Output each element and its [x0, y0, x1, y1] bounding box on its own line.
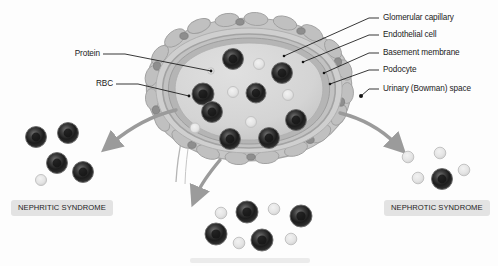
arrow-to-center — [197, 160, 220, 194]
leader-dot-glomerular-capillary — [283, 55, 286, 58]
protein-molecule — [228, 87, 239, 98]
protein-molecule — [412, 172, 424, 184]
rbc-core — [79, 168, 88, 177]
protein-molecule — [254, 59, 265, 70]
leader-dot-basement-membrane — [323, 72, 326, 75]
rbc-core — [242, 207, 251, 216]
label-protein: Protein — [40, 50, 100, 58]
protein-molecule — [215, 207, 227, 219]
rbc-core — [32, 133, 41, 142]
protein-molecule — [434, 147, 446, 159]
protein-molecule — [283, 90, 294, 101]
leader-dot-podocyte — [329, 83, 332, 86]
protein-molecule — [36, 175, 47, 186]
leader-dot-urinary-bowman-space — [359, 94, 363, 98]
rbc-core — [211, 229, 220, 238]
nephritic-syndrome-badge: NEPHRITIC SYNDROME — [11, 200, 113, 216]
rbc-core — [64, 129, 73, 138]
diagram-canvas — [0, 0, 498, 266]
leader-dot-rbc — [188, 95, 191, 98]
nephrotic-syndrome-badge: NEPHROTIC SYNDROME — [384, 200, 490, 216]
label-podocyte: Podocyte — [383, 66, 416, 74]
rbc-core — [296, 211, 305, 220]
rbc-core — [208, 108, 217, 117]
arrow-to-nephrotic — [340, 113, 396, 144]
nephrotic-cluster — [402, 147, 470, 189]
label-rbc: RBC — [53, 80, 113, 88]
rbc-core — [53, 159, 62, 168]
rbc-core — [292, 116, 301, 125]
protein-molecule — [233, 237, 245, 249]
protein-molecule — [190, 123, 200, 133]
center-cluster — [205, 201, 312, 251]
rbc-core — [252, 89, 260, 97]
rbc-core — [229, 55, 238, 64]
rbc-core — [198, 89, 207, 98]
leader-urinary-bowman-space — [361, 89, 379, 96]
label-glomerular-capillary: Glomerular capillary — [383, 14, 454, 22]
protein-molecule — [285, 233, 297, 245]
label-basement-membrane: Basement membrane — [383, 49, 460, 57]
rbc-core — [278, 69, 287, 78]
glomerulus-diagram: ProteinRBC Glomerular capillaryEndotheli… — [0, 0, 498, 266]
rbc-core — [438, 175, 447, 184]
rbc-core — [226, 135, 235, 144]
leader-dot-endothelial-cell — [302, 61, 305, 64]
rbc-core — [257, 235, 266, 244]
protein-molecule — [458, 164, 470, 176]
label-urinary-bowman-space: Urinary (Bowman) space — [383, 85, 471, 93]
caption-bar — [190, 258, 310, 263]
protein-molecule — [402, 151, 414, 163]
glomerulus-structure — [143, 11, 355, 184]
leader-dot-protein — [210, 70, 213, 73]
rbc-core — [265, 134, 274, 143]
protein-molecule — [246, 117, 257, 128]
protein-molecule — [268, 203, 280, 215]
label-endothelial-cell: Endothelial cell — [383, 31, 436, 39]
nephritic-cluster — [26, 123, 94, 186]
